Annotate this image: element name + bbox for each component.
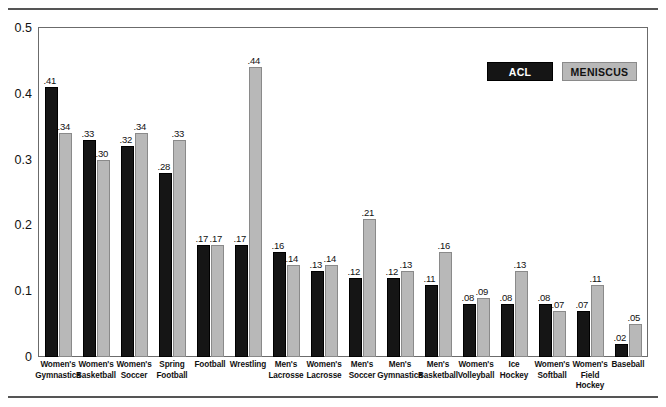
bar-acl xyxy=(425,285,438,357)
bar-acl xyxy=(463,304,476,357)
bar-value-label: .32 xyxy=(120,135,133,145)
bar-value-label: .14 xyxy=(286,254,299,264)
bar-value-label: .17 xyxy=(210,234,223,244)
bar-value-label: .13 xyxy=(514,260,527,270)
bar-value-label: .33 xyxy=(172,129,185,139)
bar-group: .32.34 xyxy=(121,28,148,357)
bar-meniscus xyxy=(515,271,528,357)
bar-value-label: .07 xyxy=(552,300,565,310)
bar-meniscus xyxy=(325,265,338,357)
bar-acl xyxy=(311,271,324,357)
y-axis-tick-label: 0.1 xyxy=(15,285,32,297)
bar-value-label: .12 xyxy=(386,267,399,277)
bar-value-label: .28 xyxy=(158,162,171,172)
bar-value-label: .17 xyxy=(234,234,247,244)
bar-value-label: .21 xyxy=(362,208,375,218)
bar-group: .12.13 xyxy=(387,28,414,357)
legend-item-meniscus[interactable]: MENISCUS xyxy=(562,62,637,81)
bar-acl xyxy=(387,278,400,357)
bar-acl xyxy=(273,252,286,357)
bar-group: .16.14 xyxy=(273,28,300,357)
y-axis-tick-label: 0.5 xyxy=(15,22,32,34)
bar-acl xyxy=(615,344,628,357)
bar-value-label: .41 xyxy=(44,76,57,86)
bar-meniscus xyxy=(59,133,72,357)
bar-value-label: .02 xyxy=(614,333,627,343)
bar-meniscus xyxy=(439,252,452,357)
bar-group: .33.30 xyxy=(83,28,110,357)
bar-group: .11.16 xyxy=(425,28,452,357)
bar-group: .28.33 xyxy=(159,28,186,357)
bar-acl xyxy=(45,87,58,357)
bar-group: .17.17 xyxy=(197,28,224,357)
bar-value-label: .30 xyxy=(96,149,109,159)
y-axis-tick-label: 0.2 xyxy=(15,219,32,231)
bar-value-label: .34 xyxy=(58,122,71,132)
bar-meniscus xyxy=(401,271,414,357)
y-axis: 00.10.20.30.40.5 xyxy=(0,0,38,407)
bar-meniscus xyxy=(477,298,490,357)
bars-layer: .41.34.33.30.32.34.28.33.17.17.17.44.16.… xyxy=(39,28,647,357)
bar-group: .41.34 xyxy=(45,28,72,357)
bar-acl xyxy=(197,245,210,357)
bar-meniscus xyxy=(211,245,224,357)
bar-value-label: .16 xyxy=(438,241,451,251)
x-axis-category-label: Baseball xyxy=(600,360,656,371)
bar-meniscus xyxy=(553,311,566,357)
bar-group: .13.14 xyxy=(311,28,338,357)
bar-acl xyxy=(159,173,172,357)
bar-meniscus xyxy=(287,265,300,357)
bar-value-label: .07 xyxy=(576,300,589,310)
bar-value-label: .11 xyxy=(424,274,436,284)
bar-chart-figure: 00.10.20.30.40.5 .41.34.33.30.32.34.28.3… xyxy=(0,0,666,407)
bar-value-label: .11 xyxy=(590,274,602,284)
bar-value-label: .09 xyxy=(476,287,489,297)
bar-acl xyxy=(349,278,362,357)
bar-acl xyxy=(539,304,552,357)
top-divider-rule xyxy=(8,8,658,10)
bar-value-label: .08 xyxy=(538,293,551,303)
bar-meniscus xyxy=(629,324,642,357)
y-axis-tick-label: 0.4 xyxy=(15,88,32,100)
bar-acl xyxy=(83,140,96,357)
bar-value-label: .13 xyxy=(310,260,323,270)
bar-value-label: .08 xyxy=(500,293,513,303)
y-axis-tick-label: 0.3 xyxy=(15,154,32,166)
bar-value-label: .13 xyxy=(400,260,413,270)
bar-value-label: .34 xyxy=(134,122,147,132)
bar-group: .17.44 xyxy=(235,28,262,357)
legend-item-acl[interactable]: ACL xyxy=(487,62,553,81)
bar-meniscus xyxy=(135,133,148,357)
bar-meniscus xyxy=(249,67,262,357)
bar-meniscus xyxy=(363,219,376,357)
bar-acl xyxy=(577,311,590,357)
bar-group: .12.21 xyxy=(349,28,376,357)
bar-value-label: .44 xyxy=(248,56,261,66)
bar-meniscus xyxy=(97,160,110,357)
bar-value-label: .12 xyxy=(348,267,361,277)
bar-acl xyxy=(235,245,248,357)
x-axis-category-labels: Women'sGymnasticsWomen'sBasketballWomen'… xyxy=(39,360,647,404)
bar-meniscus xyxy=(173,140,186,357)
bar-acl xyxy=(121,146,134,357)
bar-acl xyxy=(501,304,514,357)
bar-value-label: .33 xyxy=(82,129,95,139)
bar-group: .08.09 xyxy=(463,28,490,357)
bar-value-label: .14 xyxy=(324,254,337,264)
bar-value-label: .17 xyxy=(196,234,209,244)
bar-meniscus xyxy=(591,285,604,357)
bar-value-label: .16 xyxy=(272,241,285,251)
bar-value-label: .05 xyxy=(628,313,641,323)
bar-value-label: .08 xyxy=(462,293,475,303)
